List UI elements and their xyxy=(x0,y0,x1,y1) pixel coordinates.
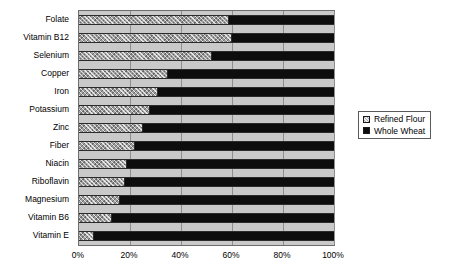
bar-row xyxy=(79,227,334,245)
bar-segment-whole-wheat[interactable] xyxy=(150,106,334,114)
y-axis-label-vitamin-b6: Vitamin B6 xyxy=(0,208,74,226)
stacked-bar[interactable] xyxy=(79,123,334,133)
stacked-bar[interactable] xyxy=(79,159,334,169)
y-axis-label-copper: Copper xyxy=(0,64,74,82)
y-axis-label-selenium: Selenium xyxy=(0,46,74,64)
bar-segment-whole-wheat[interactable] xyxy=(232,34,334,42)
stacked-bar[interactable] xyxy=(79,195,334,205)
x-axis-tick-label: 80% xyxy=(273,250,290,260)
x-axis-tick-labels: 0%20%40%60%80%100% xyxy=(78,250,333,264)
x-axis-tick-label: 0% xyxy=(72,250,84,260)
bar-segment-refined-flour[interactable] xyxy=(79,232,94,240)
bar-segment-whole-wheat[interactable] xyxy=(94,232,334,240)
bar-segment-whole-wheat[interactable] xyxy=(135,142,334,150)
y-axis-label-vitamin-b12: Vitamin B12 xyxy=(0,28,74,46)
stacked-bar[interactable] xyxy=(79,141,334,151)
legend-label-whole-wheat: Whole Wheat xyxy=(374,127,425,136)
y-axis-label-zinc: Zinc xyxy=(0,118,74,136)
bar-segment-refined-flour[interactable] xyxy=(79,160,127,168)
legend-item-refined-flour[interactable]: Refined Flour xyxy=(363,115,425,124)
gridline xyxy=(334,11,335,245)
y-axis-label-riboflavin: Riboflavin xyxy=(0,172,74,190)
x-axis-tick-label: 60% xyxy=(222,250,239,260)
bar-row xyxy=(79,173,334,191)
stacked-bar-chart: Folate Vitamin B12 Selenium Copper Iron … xyxy=(0,0,461,277)
y-axis-label-potassium: Potassium xyxy=(0,100,74,118)
y-axis-label-magnesium: Magnesium xyxy=(0,190,74,208)
bar-segment-refined-flour[interactable] xyxy=(79,34,232,42)
bar-segment-whole-wheat[interactable] xyxy=(168,70,334,78)
stacked-bar[interactable] xyxy=(79,177,334,187)
legend-swatch-whole-wheat-icon xyxy=(363,127,370,134)
bar-segment-whole-wheat[interactable] xyxy=(143,124,334,132)
stacked-bar[interactable] xyxy=(79,15,334,25)
y-axis-label-folate: Folate xyxy=(0,10,74,28)
y-axis-label-niacin: Niacin xyxy=(0,154,74,172)
bar-row xyxy=(79,155,334,173)
stacked-bar[interactable] xyxy=(79,231,334,241)
bar-row xyxy=(79,47,334,65)
x-axis-tick-label: 40% xyxy=(171,250,188,260)
bars-layer xyxy=(79,11,334,245)
x-axis-tick-label: 20% xyxy=(120,250,137,260)
bar-row xyxy=(79,119,334,137)
bar-segment-whole-wheat[interactable] xyxy=(229,16,334,24)
bar-row xyxy=(79,65,334,83)
bar-row xyxy=(79,101,334,119)
bar-row xyxy=(79,29,334,47)
legend-swatch-refined-flour-icon xyxy=(363,116,370,123)
plot-area xyxy=(78,10,335,246)
chart-legend: Refined Flour Whole Wheat xyxy=(358,111,431,139)
stacked-bar[interactable] xyxy=(79,69,334,79)
bar-segment-refined-flour[interactable] xyxy=(79,178,125,186)
bar-segment-whole-wheat[interactable] xyxy=(120,196,334,204)
legend-item-whole-wheat[interactable]: Whole Wheat xyxy=(363,127,425,136)
bar-segment-refined-flour[interactable] xyxy=(79,70,168,78)
bar-row xyxy=(79,209,334,227)
x-axis-tick-label: 100% xyxy=(322,250,344,260)
bar-segment-whole-wheat[interactable] xyxy=(158,88,334,96)
stacked-bar[interactable] xyxy=(79,213,334,223)
bar-segment-whole-wheat[interactable] xyxy=(127,160,334,168)
bar-segment-refined-flour[interactable] xyxy=(79,88,158,96)
bar-segment-refined-flour[interactable] xyxy=(79,106,150,114)
y-axis-label-vitamin-e: Vitamin E xyxy=(0,226,74,244)
y-axis-category-labels: Folate Vitamin B12 Selenium Copper Iron … xyxy=(0,10,74,244)
stacked-bar[interactable] xyxy=(79,105,334,115)
stacked-bar[interactable] xyxy=(79,33,334,43)
bar-segment-refined-flour[interactable] xyxy=(79,142,135,150)
stacked-bar[interactable] xyxy=(79,51,334,61)
y-axis-label-fiber: Fiber xyxy=(0,136,74,154)
bar-row xyxy=(79,137,334,155)
bar-segment-refined-flour[interactable] xyxy=(79,124,143,132)
bar-segment-whole-wheat[interactable] xyxy=(112,214,334,222)
bar-segment-refined-flour[interactable] xyxy=(79,52,212,60)
stacked-bar[interactable] xyxy=(79,87,334,97)
bar-segment-refined-flour[interactable] xyxy=(79,196,120,204)
bar-row xyxy=(79,191,334,209)
bar-segment-whole-wheat[interactable] xyxy=(212,52,334,60)
bar-row xyxy=(79,83,334,101)
legend-label-refined-flour: Refined Flour xyxy=(374,115,425,124)
bar-segment-whole-wheat[interactable] xyxy=(125,178,334,186)
bar-segment-refined-flour[interactable] xyxy=(79,214,112,222)
bar-row xyxy=(79,11,334,29)
y-axis-label-iron: Iron xyxy=(0,82,74,100)
bar-segment-refined-flour[interactable] xyxy=(79,16,229,24)
